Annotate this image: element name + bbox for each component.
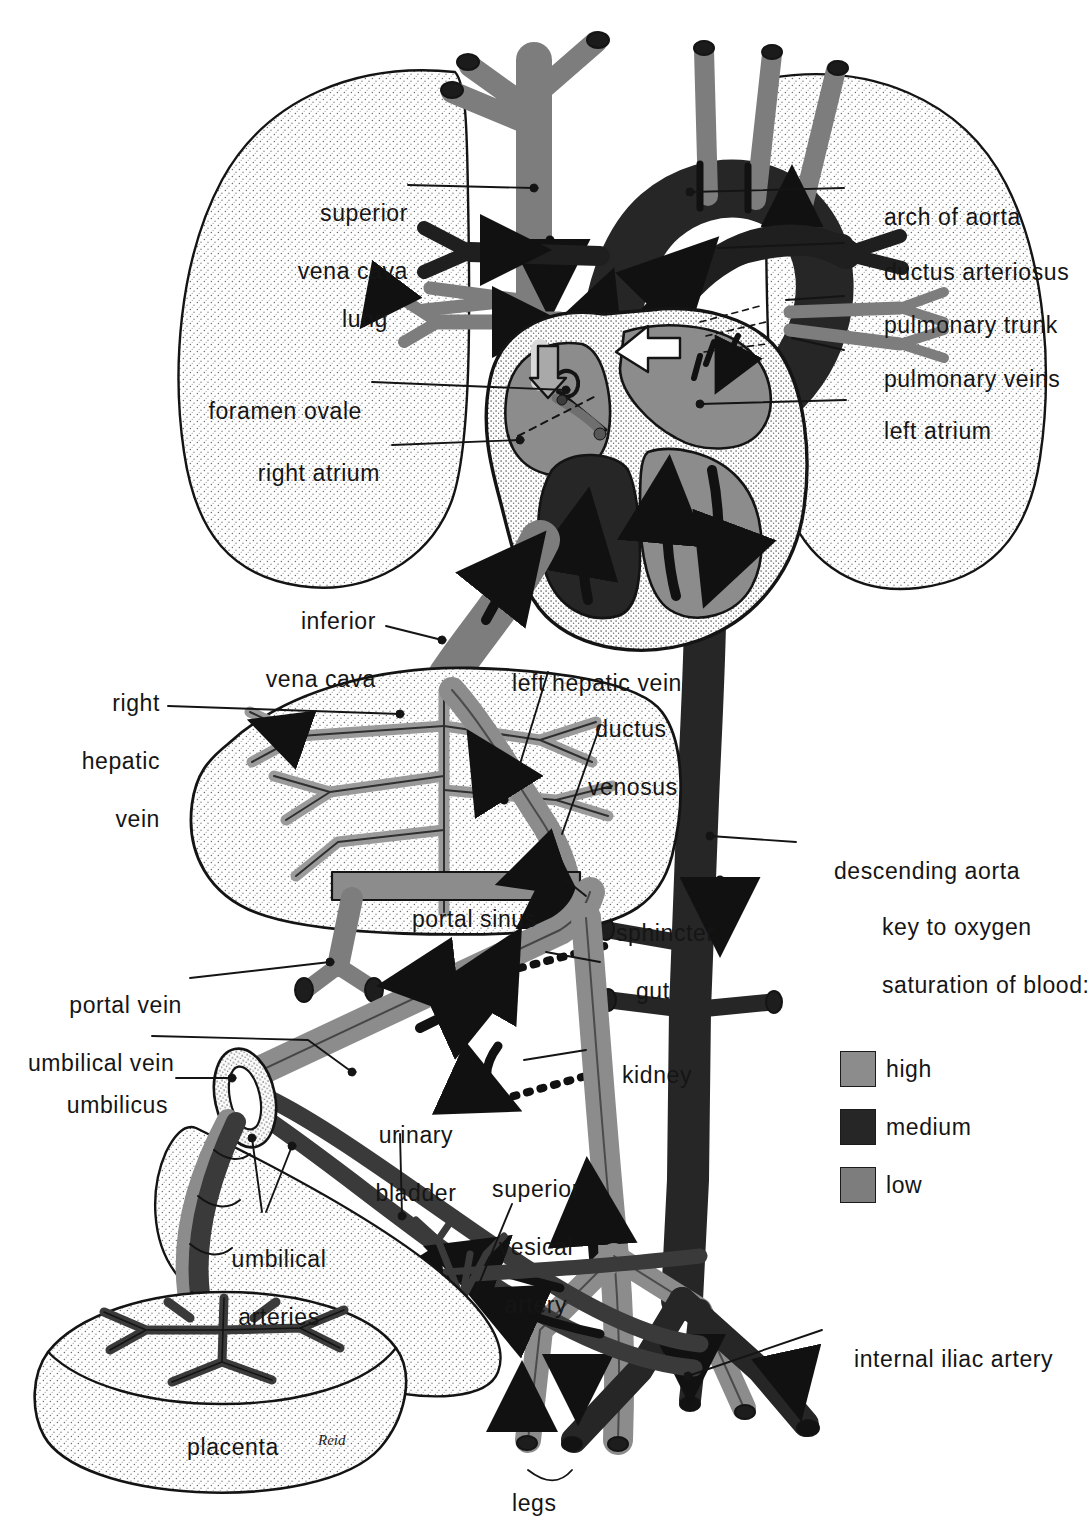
key-swatch-medium xyxy=(840,1109,876,1145)
key-swatch-high xyxy=(840,1051,876,1087)
label-portal-sinus: portal sinus xyxy=(384,876,537,963)
label-superior-vesical-artery: superior vesical artery xyxy=(450,1146,594,1349)
artist-signature: Reid xyxy=(318,1432,346,1449)
label-internal-iliac-artery: internal iliac artery xyxy=(826,1316,1053,1403)
label-gut: gut xyxy=(608,948,670,1035)
key-label-low: low xyxy=(886,1172,922,1199)
key-swatch-low xyxy=(840,1167,876,1203)
label-ductus-venosus: ductus venosus xyxy=(560,686,674,831)
label-legs: legs xyxy=(484,1460,557,1532)
label-placenta: placenta xyxy=(124,1404,314,1491)
key-entry-high: high xyxy=(840,1051,1080,1087)
label-right-atrium: right atrium xyxy=(180,430,380,517)
key-entry-medium: medium xyxy=(840,1109,1080,1145)
label-left-atrium: left atrium xyxy=(856,388,992,475)
key-label-medium: medium xyxy=(886,1114,971,1141)
label-umbilicus: umbilicus xyxy=(0,1062,168,1149)
label-right-hepatic-vein: right hepatic vein xyxy=(0,660,160,863)
label-kidney: kidney xyxy=(594,1032,692,1119)
key-title: key to oxygen saturation of blood: xyxy=(840,884,1080,1029)
fetal-circulation-figure: superior vena cava lung foramen ovale ri… xyxy=(0,0,1092,1532)
oxygen-saturation-key: key to oxygen saturation of blood: high … xyxy=(840,884,1080,1203)
label-lung: lung xyxy=(270,276,388,363)
label-inferior-vena-cava: inferior vena cava xyxy=(130,578,376,723)
label-umbilical-arteries: umbilical arteries xyxy=(180,1216,350,1361)
key-entry-low: low xyxy=(840,1167,1080,1203)
key-label-high: high xyxy=(886,1056,932,1083)
